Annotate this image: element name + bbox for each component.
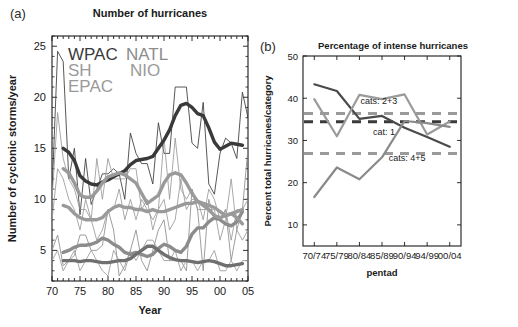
panel-a-ytick-label: 10 [34,193,46,205]
panel-b-ticks [303,56,461,246]
panel-a-x-axis-title: Year [138,304,162,316]
panel-b-xtick-label: 70/74 [302,250,326,261]
panel-b-xtick-label: 75/79 [325,250,349,261]
panel-b-ytick-label: 20 [287,177,298,188]
panel-b-chart: 70/7475/7980/8485/8990/9494/9900/0410203… [256,0,518,327]
panel-a-ytick-label: 15 [34,142,46,154]
series-line-cat--1 [314,84,449,146]
legend-label-nio: NIO [130,61,160,80]
panel-a-xtick-label: 80 [102,285,114,297]
panel-a-y-axis-title: Number of cyclonic storms/year [6,74,18,242]
panel-a-legend: WPACNATLSHNIOEPAC [68,45,168,96]
panel-a-xtick-label: 70 [46,285,58,297]
panel-a-xtick-label: 05 [242,285,254,297]
panel-b-xtick-label: 85/89 [370,250,394,261]
legend-label-epac: EPAC [68,77,113,96]
panel-b-ytick-label: 40 [287,93,298,104]
annotation-cat--1: cat: 1 [373,127,395,137]
panel-b-xtick-label: 90/94 [393,250,417,261]
figure-root: (a) (b) Number of hurricanes Percentage … [0,0,518,327]
panel-a-xtick-label: 95 [186,285,198,297]
panel-b-xtick-label: 80/84 [348,250,372,261]
panel-b-xtick-label: 00/04 [438,250,462,261]
panel-b-ytick-label: 30 [287,135,298,146]
panel-b-ytick-label: 10 [287,219,298,230]
annotation-cats--2-3: cats: 2+3 [361,96,398,106]
panel-b-ytick-label: 50 [287,51,298,62]
panel-b-xtick-label: 94/99 [415,250,439,261]
panel-b-x-axis-title: pentad [366,267,397,278]
panel-a-ytick-label: 20 [34,91,46,103]
panel-a-chart: 7075808590950005510152025 WPACNATLSHNIOE… [0,0,260,327]
panel-b-plot-frame [303,56,461,246]
annotation-cats--4-5: cats: 4+5 [389,153,426,163]
panel-a-xtick-label: 00 [214,285,226,297]
panel-a-ytick-label: 5 [40,244,46,256]
panel-b-y-axis-title: Percent total hurricanes/category [262,75,273,227]
panel-a-xtick-label: 75 [74,285,86,297]
series-smooth-wpac-smoothed [63,103,242,185]
panel-b-tick-labels: 70/7475/7980/8485/8990/9494/9900/0410203… [287,51,461,262]
panel-a-xtick-label: 85 [130,285,142,297]
panel-a-ytick-label: 25 [34,40,46,52]
panel-a-xtick-label: 90 [158,285,170,297]
